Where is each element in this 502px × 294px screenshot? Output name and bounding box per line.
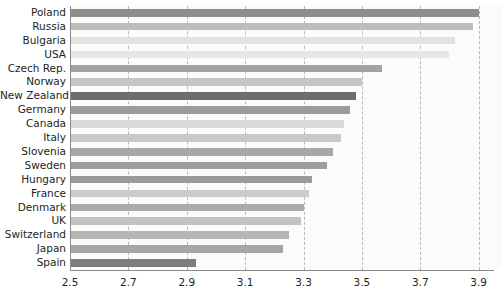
plot-area: [70, 6, 502, 270]
bar: [70, 65, 382, 73]
y-axis-label: Sweden: [0, 159, 66, 173]
y-axis-label: Denmark: [0, 201, 66, 215]
bar: [70, 23, 473, 31]
bar-row: [70, 145, 502, 159]
x-axis-tick-label: 2.7: [120, 275, 137, 289]
bar-row: [70, 187, 502, 201]
y-axis-label: Poland: [0, 6, 66, 20]
bar-row: [70, 173, 502, 187]
bar-chart: PolandRussiaBulgariaUSACzech Rep.NorwayN…: [0, 0, 502, 294]
bar: [70, 134, 341, 142]
y-axis-line: [70, 6, 71, 270]
bar: [70, 37, 455, 45]
bar-row: [70, 131, 502, 145]
y-axis-label: Bulgaria: [0, 34, 66, 48]
bar-row: [70, 214, 502, 228]
bar-row: [70, 6, 502, 20]
bar-row: [70, 34, 502, 48]
x-axis-tick-label: 2.5: [62, 275, 79, 289]
y-axis-label: Norway: [0, 75, 66, 89]
bar-row: [70, 48, 502, 62]
bar-row: [70, 228, 502, 242]
bar-row: [70, 159, 502, 173]
bar: [70, 9, 479, 17]
y-axis-label: France: [0, 187, 66, 201]
x-axis-line: [70, 270, 494, 271]
bar-rows: [70, 6, 502, 270]
bar-row: [70, 89, 502, 103]
y-axis-label: UK: [0, 214, 66, 228]
bar: [70, 231, 289, 239]
bar: [70, 217, 301, 225]
y-axis-label: New Zealand: [0, 89, 66, 103]
bar: [70, 106, 350, 114]
bar: [70, 78, 362, 86]
y-axis-label: Canada: [0, 117, 66, 131]
bar-row: [70, 201, 502, 215]
y-axis-label: Germany: [0, 103, 66, 117]
bar-row: [70, 117, 502, 131]
bar: [70, 148, 333, 156]
bar: [70, 120, 344, 128]
bar: [70, 245, 283, 253]
y-axis-label: Hungary: [0, 173, 66, 187]
bar: [70, 259, 196, 267]
y-axis-label: USA: [0, 48, 66, 62]
bar-row: [70, 62, 502, 76]
bar-row: [70, 242, 502, 256]
x-axis-tick-label: 2.9: [178, 275, 195, 289]
y-axis-label: Japan: [0, 242, 66, 256]
bar-row: [70, 103, 502, 117]
bar: [70, 162, 327, 170]
y-axis-label: Switzerland: [0, 228, 66, 242]
y-axis-label: Russia: [0, 20, 66, 34]
x-axis-tick-label: 3.7: [412, 275, 429, 289]
y-axis-label: Czech Rep.: [0, 62, 66, 76]
bar: [70, 92, 356, 100]
x-axis-tick-label: 3.1: [237, 275, 254, 289]
x-axis-tick-label: 3.3: [295, 275, 312, 289]
bar: [70, 176, 312, 184]
bar-row: [70, 256, 502, 270]
y-axis-label: Slovenia: [0, 145, 66, 159]
y-axis-label: Spain: [0, 256, 66, 270]
bar: [70, 51, 449, 59]
bar-row: [70, 75, 502, 89]
bar: [70, 204, 304, 212]
bar: [70, 190, 309, 198]
y-axis-category-labels: PolandRussiaBulgariaUSACzech Rep.NorwayN…: [0, 6, 66, 270]
y-axis-label: Italy: [0, 131, 66, 145]
x-axis-tick-label: 3.9: [470, 275, 487, 289]
x-axis-tick-label: 3.5: [354, 275, 371, 289]
bar-row: [70, 20, 502, 34]
